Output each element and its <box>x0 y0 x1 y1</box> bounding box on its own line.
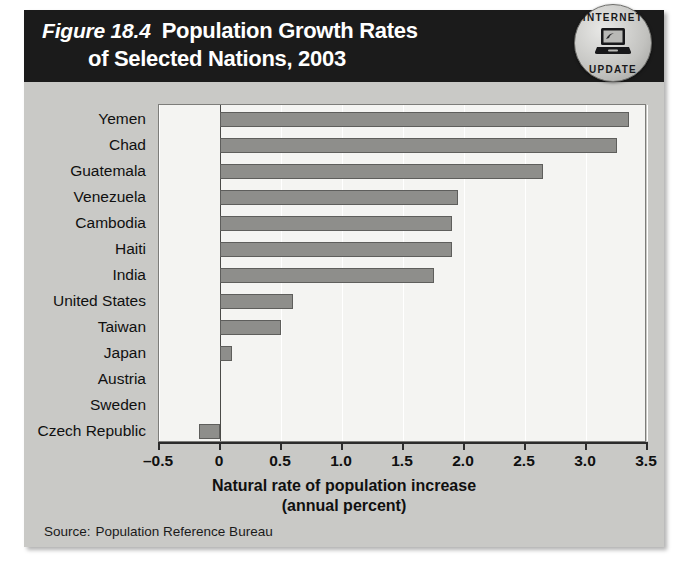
bar[interactable] <box>220 164 543 179</box>
internet-update-badge[interactable]: INTERNET UPDATE <box>574 4 652 82</box>
y-axis-label: United States <box>53 288 146 314</box>
bar[interactable] <box>220 216 452 231</box>
source-label: Source: <box>44 524 91 539</box>
x-axis-tick <box>585 442 587 450</box>
computer-icon <box>595 27 631 58</box>
x-axis-tick-label: 0.5 <box>269 452 291 470</box>
x-axis-tick <box>158 442 160 450</box>
x-axis-tick <box>646 442 648 450</box>
source-note: Source:Population Reference Bureau <box>44 524 273 539</box>
x-axis-title: Natural rate of population increase (ann… <box>24 476 664 516</box>
y-axis-label: Japan <box>104 340 146 366</box>
y-axis-label: Haiti <box>115 236 146 262</box>
bar[interactable] <box>220 138 617 153</box>
x-axis-tick <box>280 442 282 450</box>
bar[interactable] <box>220 268 434 283</box>
y-axis-label: Sweden <box>90 392 146 418</box>
chart-body: YemenChadGuatemalaVenezuelaCambodiaHaiti… <box>24 82 664 547</box>
bar[interactable] <box>199 424 220 439</box>
bar-row <box>159 341 645 367</box>
x-axis-tick-label: –0.5 <box>143 452 173 470</box>
title-line-2: of Selected Nations, 2003 <box>42 45 554 73</box>
bar-row <box>159 107 645 133</box>
bar[interactable] <box>220 112 629 127</box>
bar-row <box>159 237 645 263</box>
y-axis-label: India <box>112 262 146 288</box>
bar-row <box>159 185 645 211</box>
figure-container: Figure 18.4Population Growth Rates of Se… <box>24 10 664 547</box>
x-axis-tick <box>524 442 526 450</box>
gridline <box>647 105 648 441</box>
y-axis-label: Chad <box>109 132 146 158</box>
y-axis-label: Cambodia <box>75 210 146 236</box>
figure-title-part-1: Population Growth Rates <box>162 18 418 43</box>
source-value: Population Reference Bureau <box>96 524 273 539</box>
figure-title-block: Figure 18.4Population Growth Rates of Se… <box>42 17 554 73</box>
bar-row <box>159 211 645 237</box>
x-axis-tick <box>219 442 221 450</box>
figure-title-part-2: of Selected Nations, 2003 <box>88 46 346 71</box>
y-axis-label: Czech Republic <box>37 418 146 444</box>
bar-row <box>159 263 645 289</box>
bar[interactable] <box>220 320 281 335</box>
y-axis-label: Guatemala <box>70 158 146 184</box>
x-axis-tick-label: 2.5 <box>513 452 535 470</box>
title-line-1: Figure 18.4Population Growth Rates <box>42 17 554 45</box>
x-axis-tick-label: 0 <box>215 452 224 470</box>
y-axis-label: Yemen <box>98 106 146 132</box>
bar-row <box>159 133 645 159</box>
bar[interactable] <box>220 242 452 257</box>
x-axis-tick <box>463 442 465 450</box>
bar-row <box>159 315 645 341</box>
x-axis-tick-label: 3.0 <box>574 452 596 470</box>
bar-row <box>159 159 645 185</box>
x-axis-tick-label: 3.5 <box>635 452 657 470</box>
badge-top-label: INTERNET <box>575 11 651 23</box>
figure-header: Figure 18.4Population Growth Rates of Se… <box>24 10 664 82</box>
x-axis-tick-label: 1.0 <box>330 452 352 470</box>
y-axis-category-labels: YemenChadGuatemalaVenezuelaCambodiaHaiti… <box>24 104 154 442</box>
x-axis-tick <box>341 442 343 450</box>
bar[interactable] <box>220 294 293 309</box>
x-axis: –0.500.51.01.52.02.53.03.5 <box>158 442 646 472</box>
x-axis-tick-label: 1.5 <box>391 452 413 470</box>
bar[interactable] <box>220 190 458 205</box>
bar[interactable] <box>220 346 232 361</box>
bar-row <box>159 393 645 419</box>
bar-row <box>159 289 645 315</box>
y-axis-label: Venezuela <box>74 184 146 210</box>
x-axis-tick <box>402 442 404 450</box>
y-axis-label: Austria <box>98 366 146 392</box>
x-axis-title-line-1: Natural rate of population increase <box>24 476 664 496</box>
figure-number: Figure 18.4 <box>42 19 151 42</box>
bar-row <box>159 367 645 393</box>
y-axis-label: Taiwan <box>98 314 146 340</box>
x-axis-tick-label: 2.0 <box>452 452 474 470</box>
badge-bottom-label: UPDATE <box>575 63 651 75</box>
plot-area <box>158 104 646 442</box>
x-axis-title-line-2: (annual percent) <box>24 496 664 516</box>
